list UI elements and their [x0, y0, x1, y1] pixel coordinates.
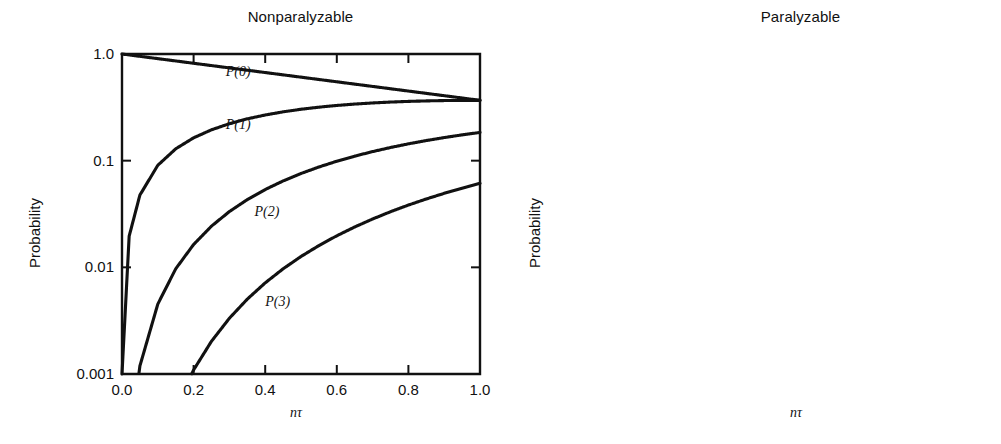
y-tick-label: 1.0 [93, 45, 114, 62]
curve-label: P(3) [264, 294, 290, 310]
chart-panel-paralyzable: Paralyzable Probability nτ 0.00.20.40.60… [500, 0, 1001, 444]
y-tick-label: 0.001 [76, 365, 114, 382]
curve-label: P(2) [253, 204, 279, 220]
plot-area-paralyzable: 0.00.20.40.60.81.01.00.10.010.001P(0)P(1… [500, 0, 1001, 444]
x-tick-label: 0.6 [326, 381, 347, 398]
chart-panel-nonparalyzable: Nonparalyzable Probability nτ 0.00.20.40… [0, 0, 501, 444]
x-tick-label: 1.0 [470, 381, 491, 398]
plot-area-nonparalyzable: 0.00.20.40.60.81.01.00.10.010.001P(0)P(1… [0, 0, 501, 444]
x-tick-label: 0.2 [183, 381, 204, 398]
x-tick-label: 0.8 [398, 381, 419, 398]
data-curve [192, 183, 480, 373]
figure-root: Nonparalyzable Probability nτ 0.00.20.40… [0, 0, 1001, 444]
curve-label: P(1) [225, 117, 251, 133]
curve-label: P(0) [225, 64, 251, 80]
x-tick-label: 0.0 [112, 381, 133, 398]
y-tick-label: 0.1 [93, 152, 114, 169]
y-tick-label: 0.01 [85, 258, 114, 275]
data-curve [122, 54, 480, 100]
x-tick-label: 0.4 [255, 381, 276, 398]
